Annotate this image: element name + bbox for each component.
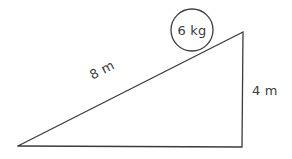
inclined-plane-figure: 6 kg 8 m 4 m (0, 0, 292, 159)
hypotenuse-length-label: 8 m (87, 57, 117, 82)
vertical-side-length-label: 4 m (252, 83, 278, 98)
triangle-incline-outline (18, 32, 243, 147)
diagram-canvas: 6 kg 8 m 4 m (0, 0, 292, 159)
mass-label: 6 kg (178, 23, 207, 38)
